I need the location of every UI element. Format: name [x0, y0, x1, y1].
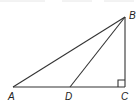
triangle-figure: A B C D — [0, 0, 139, 103]
segment-bd — [70, 17, 125, 87]
geometry-diagram: A B C D — [0, 0, 139, 103]
label-d: D — [65, 91, 72, 102]
label-b: B — [129, 10, 136, 21]
right-angle-marker — [118, 80, 125, 87]
label-c: C — [121, 91, 129, 102]
segment-ab — [13, 17, 125, 87]
label-a: A — [7, 91, 15, 102]
